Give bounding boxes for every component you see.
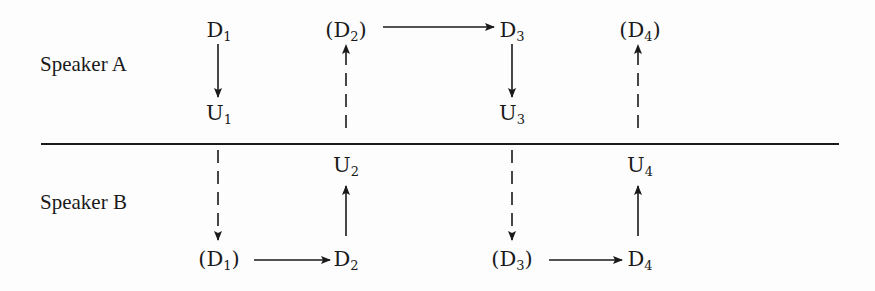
node-a-d2: (D2) <box>325 18 367 44</box>
node-a-d1: D1 <box>206 18 231 44</box>
node-symbol: U <box>627 153 645 177</box>
node-symbol: D <box>206 18 223 42</box>
node-subscript: 4 <box>645 164 653 179</box>
node-a-d4: (D4) <box>619 18 661 44</box>
node-subscript: 1 <box>223 29 231 44</box>
node-subscript: 3 <box>517 112 525 127</box>
node-symbol: U <box>206 101 224 125</box>
node-symbol: (D <box>325 18 350 42</box>
node-subscript: 2 <box>350 258 358 273</box>
node-symbol: U <box>333 153 351 177</box>
node-symbol: U <box>499 101 517 125</box>
node-symbol: D <box>499 18 516 42</box>
node-symbol: D <box>333 247 350 271</box>
node-a-u1: U1 <box>206 101 232 127</box>
node-subscript: 2 <box>351 164 359 179</box>
dialogue-diagram: Speaker A Speaker B D1U1(D2)U2D3U3(D4)U4… <box>0 0 875 291</box>
diagram-canvas <box>0 0 875 291</box>
node-symbol: (D <box>198 247 223 271</box>
node-b-u4: U4 <box>627 153 653 179</box>
node-b-d4: D4 <box>627 247 652 273</box>
node-subscript: 1 <box>224 112 232 127</box>
node-paren-close: ) <box>525 247 533 271</box>
node-subscript: 3 <box>516 29 524 44</box>
node-paren-close: ) <box>359 18 367 42</box>
speaker-a-label: Speaker A <box>40 52 127 77</box>
node-b-d1: (D1) <box>198 247 240 273</box>
node-symbol: D <box>627 247 644 271</box>
node-b-u2: U2 <box>333 153 359 179</box>
node-b-d3: (D3) <box>491 247 533 273</box>
node-subscript: 4 <box>644 258 652 273</box>
node-symbol: (D <box>619 18 644 42</box>
node-symbol: (D <box>491 247 516 271</box>
node-paren-close: ) <box>653 18 661 42</box>
node-a-d3: D3 <box>499 18 524 44</box>
speaker-b-label: Speaker B <box>40 190 127 215</box>
node-a-u3: U3 <box>499 101 525 127</box>
node-b-d2: D2 <box>333 247 358 273</box>
node-paren-close: ) <box>232 247 240 271</box>
